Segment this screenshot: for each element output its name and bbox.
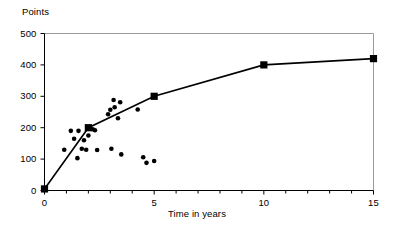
y-tick-label: 300	[3, 91, 37, 101]
x-tick-label: 0	[33, 198, 57, 208]
y-tick-label: 500	[3, 29, 37, 39]
observation-points	[62, 98, 157, 165]
y-tick-label: 400	[3, 60, 37, 70]
chart-container: Points 0100200300400500 051015 Time in y…	[0, 0, 394, 231]
y-tick-label: 100	[3, 154, 37, 164]
mean-curve-line	[45, 59, 374, 189]
x-tick-label: 5	[142, 198, 166, 208]
plot-area	[0, 0, 394, 231]
axis-ticks	[41, 34, 374, 195]
plot-frame	[45, 34, 374, 191]
x-axis-title: Time in years	[0, 208, 394, 220]
x-tick-label: 10	[252, 198, 276, 208]
x-tick-label: 15	[362, 198, 386, 208]
y-tick-label: 200	[3, 123, 37, 133]
mean-curve-markers	[41, 55, 377, 193]
y-tick-label: 0	[3, 186, 37, 196]
